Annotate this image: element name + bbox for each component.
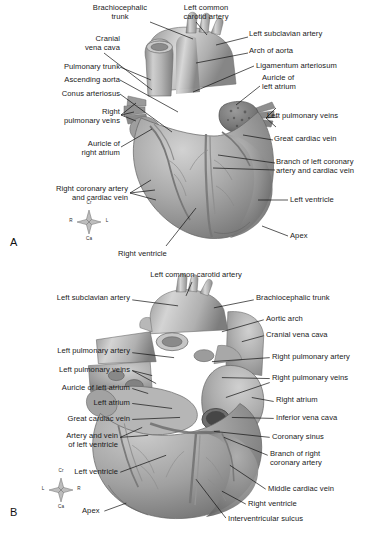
compass-label-right-a: L <box>102 218 112 223</box>
label-great-cardiac-vein: Great cardiac vein <box>274 135 390 144</box>
label-pulmonary-trunk: Pulmonary trunk <box>20 63 120 72</box>
compass-label-bottom-b: Ca <box>51 504 71 509</box>
label-left-atrium: Left atrium <box>30 399 130 408</box>
label-branch-right-coronary: Branch of right coronary artery <box>270 450 386 468</box>
compass-label-bottom-a: Ca <box>79 236 99 241</box>
anatomy-figure: A Cr R L Ca Brachiocephalic trunkLeft co… <box>0 0 390 533</box>
label-ligamentum-arteriosum: Ligamentum arteriosum <box>256 62 390 71</box>
label-right-ventricle-b: Right ventricle <box>248 500 358 509</box>
compass-label-left-a: R <box>66 218 76 223</box>
label-left-common-carotid-b: Left common carotid artery <box>120 271 272 280</box>
label-apex-b: Apex <box>82 507 132 516</box>
label-left-common-carotid: Left common carotid artery <box>166 4 246 22</box>
label-left-pulmonary-artery: Left pulmonary artery <box>10 347 130 356</box>
panel-letter-b: B <box>10 506 17 518</box>
label-great-cardiac-vein-b: Great cardiac vein <box>10 415 130 424</box>
label-aortic-arch: Aortic arch <box>266 315 376 324</box>
panel-a: A Cr R L Ca Brachiocephalic trunkLeft co… <box>0 0 390 266</box>
label-apex: Apex <box>290 232 350 241</box>
label-auricle-left-atrium-b: Auricle of left atrium <box>10 384 130 393</box>
label-left-subclavian-b: Left subclavian artery <box>10 294 130 303</box>
compass-label-right-b: R <box>74 486 84 491</box>
label-arch-of-aorta: Arch of aorta <box>249 47 379 56</box>
label-coronary-sinus: Coronary sinus <box>272 433 384 442</box>
label-brachiocephalic-trunk: Brachiocephalic trunk <box>80 4 160 22</box>
label-ascending-aorta: Ascending aorta <box>20 76 120 85</box>
heart-body-posterior <box>86 274 263 518</box>
label-conus-arteriosus: Conus arteriosus <box>20 90 120 99</box>
compass-label-left-b: L <box>38 486 48 491</box>
label-right-ventricle: Right ventricle <box>118 250 208 259</box>
label-auricle-of-right-atrium: Auricle of right atrium <box>16 140 120 158</box>
label-right-pulmonary-veins: Right pulmonary veins <box>4 108 120 126</box>
label-right-pulmonary-veins-b: Right pulmonary veins <box>272 374 390 383</box>
label-left-pulmonary-veins-b: Left pulmonary veins <box>10 366 130 375</box>
label-branch-left-coronary: Branch of left coronary artery and cardi… <box>276 158 390 176</box>
label-brachiocephalic-trunk-b: Brachiocephalic trunk <box>256 294 388 303</box>
label-middle-cardiac-vein: Middle cardiac vein <box>268 485 388 494</box>
panel-b: B Cr L R Ca Left common carotid arteryLe… <box>0 266 390 533</box>
label-right-pulmonary-artery: Right pulmonary artery <box>272 353 390 362</box>
panel-letter-a: A <box>10 236 17 248</box>
label-auricle-of-left-atrium: Auricle of left atrium <box>262 74 372 92</box>
orientation-compass-a: Cr R L Ca <box>66 200 112 244</box>
label-inferior-vena-cava: Inferior vena cava <box>276 414 388 423</box>
label-artery-vein-left-vent: Artery and vein of left ventricle <box>10 432 118 450</box>
label-interventricular-sulcus: Interventricular sulcus <box>228 515 368 524</box>
label-right-coronary-artery: Right coronary artery and cardiac vein <box>4 185 128 203</box>
label-cranial-vena-cava: Cranial vena cava <box>20 35 120 53</box>
label-left-ventricle-b: Left ventricle <box>30 468 118 477</box>
label-right-atrium: Right atrium <box>276 396 386 405</box>
label-left-ventricle: Left ventricle <box>290 196 390 205</box>
label-left-pulmonary-veins: Left pulmonary veins <box>267 112 389 121</box>
label-left-subclavian-artery: Left subclavian artery <box>249 30 379 39</box>
label-cranial-vena-cava-b: Cranial vena cava <box>266 331 386 340</box>
